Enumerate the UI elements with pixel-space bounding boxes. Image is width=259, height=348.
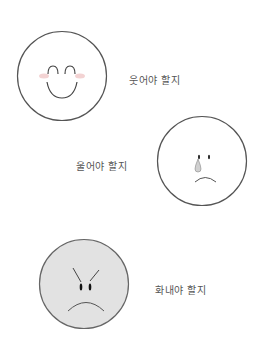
left-eye (198, 155, 200, 159)
right-blush (75, 74, 85, 79)
sad-face-icon (158, 117, 247, 206)
caption-angry: 화내야 할지 (155, 285, 206, 297)
emotion-illustration: 웃어야 할지 울어야 할지 화내야 할지 (0, 0, 259, 348)
left-blush (39, 74, 49, 79)
angry-face-icon (40, 240, 129, 329)
happy-face-icon (18, 32, 107, 121)
caption-cry: 울어야 할지 (76, 161, 127, 173)
caption-laugh: 웃어야 할지 (129, 75, 180, 87)
left-eye (80, 284, 83, 291)
right-eye (89, 284, 92, 291)
right-eye (208, 155, 210, 159)
